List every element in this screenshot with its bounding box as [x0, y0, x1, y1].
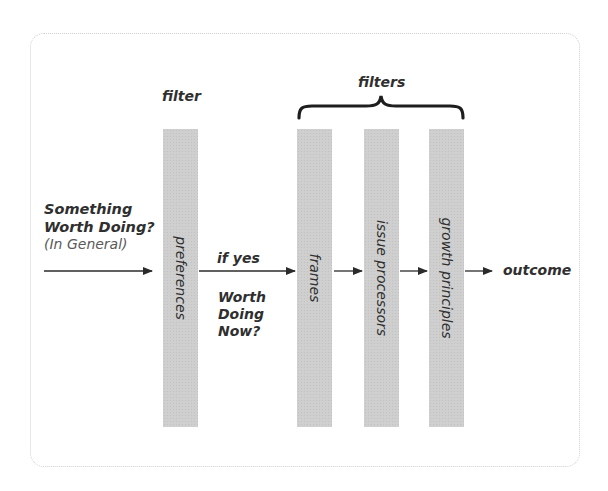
curly-brace-icon: [299, 96, 463, 118]
connectors: [0, 0, 608, 491]
